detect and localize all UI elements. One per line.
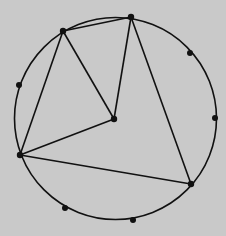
edge-B-C (114, 17, 131, 119)
edge-D-E (20, 155, 191, 184)
circle-point-5 (130, 217, 136, 223)
circle-point-4 (62, 205, 68, 211)
circle-point-1 (16, 82, 22, 88)
geometry-diagram (0, 0, 226, 236)
diagram-canvas (0, 0, 226, 236)
circle-point-2 (187, 50, 193, 56)
vertex-E (188, 181, 194, 187)
vertex-B (128, 14, 134, 20)
circle-points-group (16, 50, 218, 223)
vertices-group (17, 14, 194, 187)
vertex-D (17, 152, 23, 158)
edge-C-D (20, 119, 114, 155)
circle-point-3 (212, 115, 218, 121)
edges-group (20, 17, 191, 184)
edge-A-C (63, 31, 114, 119)
vertex-C (111, 116, 117, 122)
vertex-A (60, 28, 66, 34)
